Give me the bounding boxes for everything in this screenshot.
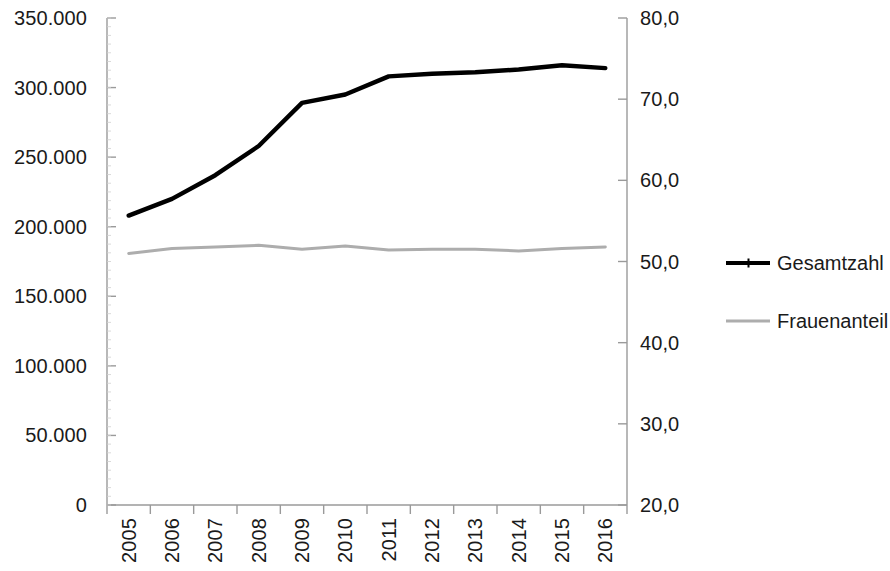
y-left-tick-label: 50.000 xyxy=(25,425,87,445)
legend-label-gesamtzahl: Gesamtzahl xyxy=(777,252,884,274)
x-tick-label: 2006 xyxy=(162,518,182,563)
x-tick-label: 2005 xyxy=(119,518,139,563)
y-left-tick-label: 200.000 xyxy=(14,217,87,237)
x-tick-label: 2010 xyxy=(335,518,355,563)
legend-item-frauenanteil: Frauenanteil xyxy=(726,306,890,336)
y-right-tick-label: 80,0 xyxy=(640,8,679,28)
y-left-tick-label: 0 xyxy=(76,495,87,515)
x-tick-label: 2008 xyxy=(249,518,269,563)
x-tick-label: 2014 xyxy=(509,518,529,563)
x-tick-label: 2016 xyxy=(595,518,615,563)
y-right-tick-label: 70,0 xyxy=(640,89,679,109)
y-right-tick-label: 60,0 xyxy=(640,170,679,190)
x-ticks xyxy=(107,505,627,514)
chart-container: 050.000100.000150.000200.000250.000300.0… xyxy=(0,0,890,571)
y-left-tick-label: 100.000 xyxy=(14,356,87,376)
x-tick-label: 2013 xyxy=(465,518,485,563)
y-right-tick-label: 30,0 xyxy=(640,414,679,434)
legend-swatch-gesamtzahl-icon xyxy=(726,256,770,270)
series-line-frauenanteil xyxy=(129,245,606,253)
y-right-ticks xyxy=(618,18,627,505)
x-tick-label: 2015 xyxy=(552,518,572,563)
y-left-tick-label: 150.000 xyxy=(14,286,87,306)
series-line-gesamtzahl xyxy=(129,65,606,215)
y-right-tick-label: 20,0 xyxy=(640,495,679,515)
legend-swatch-frauenanteil-icon xyxy=(726,314,770,328)
y-right-tick-label: 40,0 xyxy=(640,333,679,353)
legend-label-frauenanteil: Frauenanteil xyxy=(777,310,888,332)
chart-legend: Gesamtzahl Frauenanteil xyxy=(726,248,890,364)
y-left-tick-label: 300.000 xyxy=(14,78,87,98)
y-right-tick-label: 50,0 xyxy=(640,252,679,272)
y-left-tick-label: 250.000 xyxy=(14,147,87,167)
x-tick-label: 2009 xyxy=(292,518,312,563)
legend-item-gesamtzahl: Gesamtzahl xyxy=(726,248,890,278)
x-tick-label: 2007 xyxy=(205,518,225,563)
x-tick-label: 2012 xyxy=(422,518,442,563)
y-left-tick-label: 350.000 xyxy=(14,8,87,28)
x-tick-label: 2011 xyxy=(379,518,399,561)
